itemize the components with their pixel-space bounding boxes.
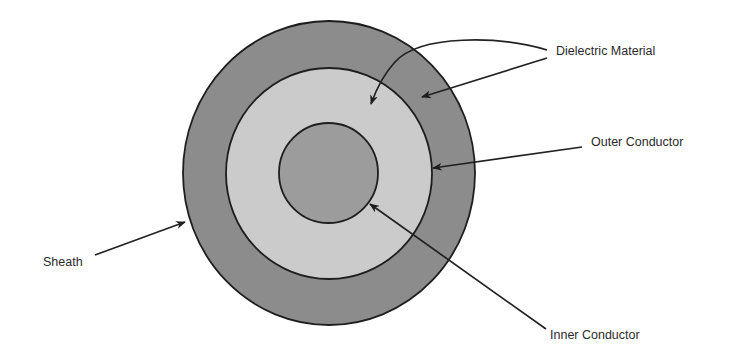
label-sheath: Sheath — [43, 255, 83, 269]
label-dielectric-material: Dielectric Material — [556, 44, 655, 58]
inner-conductor-layer — [279, 123, 378, 223]
sheath-arrow — [95, 222, 185, 255]
coaxial-cable-diagram: Dielectric Material Outer Conductor Shea… — [0, 0, 734, 361]
label-outer-conductor: Outer Conductor — [591, 135, 683, 149]
label-inner-conductor: Inner Conductor — [550, 328, 640, 342]
